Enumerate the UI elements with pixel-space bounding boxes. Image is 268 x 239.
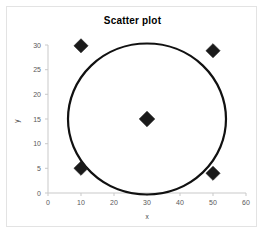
y-tick-label: 10 [33, 140, 41, 147]
y-tick-label: 15 [33, 116, 41, 123]
y-tick-label: 0 [37, 190, 41, 197]
y-tick-label: 5 [37, 165, 41, 172]
x-tick-label: 0 [46, 199, 50, 206]
y-tick-label: 20 [33, 91, 41, 98]
data-point-markers [74, 39, 220, 181]
chart-frame: Scatter plot 0 10 20 [6, 6, 257, 227]
y-tick-label: 25 [33, 66, 41, 73]
x-tick-label: 60 [242, 199, 250, 206]
data-point-marker[interactable] [74, 161, 88, 175]
x-tick-label: 20 [110, 199, 118, 206]
scatter-plot-canvas: 0 10 20 30 40 50 60 0 5 10 15 20 25 30 x… [7, 7, 258, 228]
x-tick-label-group: 0 10 20 30 40 50 60 [46, 199, 250, 206]
data-point-marker[interactable] [139, 111, 155, 127]
x-tick-label: 10 [77, 199, 85, 206]
x-axis-title: x [145, 213, 149, 220]
y-tick-label: 30 [33, 42, 41, 49]
x-tick-label: 40 [176, 199, 184, 206]
y-axis-title: y [13, 119, 21, 123]
x-tick-label: 30 [143, 199, 151, 206]
data-point-marker[interactable] [206, 44, 220, 58]
data-point-marker[interactable] [74, 39, 88, 53]
y-tick-label-group: 0 5 10 15 20 25 30 [33, 42, 41, 197]
x-tick-label: 50 [209, 199, 217, 206]
